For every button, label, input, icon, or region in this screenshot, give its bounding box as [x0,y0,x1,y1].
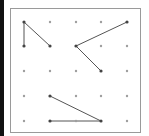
grid-peg-dot [126,45,128,47]
grid-peg-dot [22,20,25,23]
line-segment [76,22,127,46]
grid-peg-dot [49,70,51,72]
grid-peg-dot [23,95,25,97]
grid-peg-dot [99,119,102,122]
line-segment [50,96,101,121]
grid-peg-dot [48,119,51,122]
grid-peg-dot [75,120,77,122]
grid-peg-dot [99,69,102,72]
grid-peg-dot [100,95,102,97]
grid-peg-dot [22,44,25,47]
geoboard-diagram [0,0,149,136]
grid-peg-dot [126,70,128,72]
grid-peg-dot [75,95,77,97]
line-segment [24,22,50,46]
line-segment [76,46,101,71]
grid-peg-dot [125,20,128,23]
grid-peg-dot [49,21,51,23]
grid-peg-dot [126,120,128,122]
grid-peg-dot [100,45,102,47]
grid-peg-dot [75,21,77,23]
grid-peg-dot [100,21,102,23]
grid-peg-dot [23,120,25,122]
grid-peg-dot [74,44,77,47]
grid-peg-dot [23,70,25,72]
grid-peg-dot [48,44,51,47]
grid-peg-dot [126,95,128,97]
grid-peg-dot [75,70,77,72]
grid-peg-dot [48,94,51,97]
